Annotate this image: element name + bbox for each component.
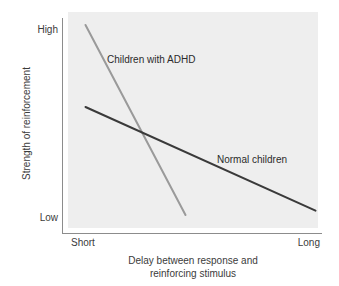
x-axis-tick-long: Long [262,237,320,249]
y-axis-tick-high: High [30,24,58,36]
plot-area [68,12,318,228]
y-axis-title: Strength of reinforcement [21,49,32,199]
y-axis-tick-low: Low [30,212,58,224]
x-axis-spine [62,233,322,234]
x-axis-title-line-1: Delay between response and [68,254,318,267]
x-axis-title-line-2: reinforcing stimulus [68,267,318,280]
x-axis-tick-short: Short [71,237,95,249]
chart-figure: High Low Short Long Strength of reinforc… [0,0,339,286]
y-axis-spine [62,18,63,234]
x-axis-title: Delay between response and reinforcing s… [68,254,318,280]
series-label-children-with-adhd: Children with ADHD [107,54,195,66]
series-label-normal-children: Normal children [217,154,287,166]
